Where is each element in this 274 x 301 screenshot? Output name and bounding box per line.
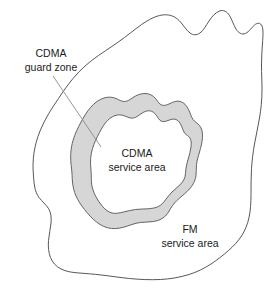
guard-zone-label-line2: guard zone [25,61,78,73]
fm-service-area-outline [33,11,263,280]
cdma-service-area-label-line2: service area [108,161,165,173]
guard-zone-label-line1: CDMA [36,47,67,59]
service-area-diagram: CDMA guard zone CDMA service area FM ser… [0,0,274,301]
fm-service-area-label-line2: service area [161,237,218,249]
label-cdma-guard-zone: CDMA guard zone [25,47,78,73]
diagram-canvas: CDMA guard zone CDMA service area FM ser… [0,0,274,301]
fm-service-area-label-line1: FM [182,223,197,235]
cdma-service-area-label-line1: CDMA [122,147,153,159]
